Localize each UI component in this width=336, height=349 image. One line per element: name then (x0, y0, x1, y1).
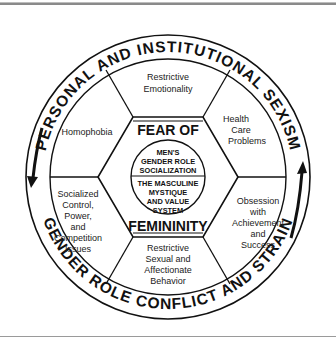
down-arrow-icon (27, 128, 42, 188)
svg-text:Affectionate: Affectionate (144, 265, 191, 275)
svg-text:Competition: Competition (54, 233, 102, 243)
hexagon-label-bottom: FEMININITY (128, 218, 208, 234)
segment-top-left-label: Homophobia (61, 127, 112, 137)
gender-role-conflict-diagram: PERSONAL AND INSTITUTIONAL SEXISM GENDER… (0, 0, 336, 349)
svg-text:and: and (250, 229, 265, 239)
svg-text:Socialized: Socialized (57, 189, 98, 199)
svg-text:Sexual and: Sexual and (145, 254, 190, 264)
svg-text:Problems: Problems (228, 136, 267, 146)
svg-text:Achievement: Achievement (232, 218, 285, 228)
up-arrow-icon (291, 161, 307, 238)
svg-text:and: and (70, 222, 85, 232)
svg-text:Homophobia: Homophobia (61, 127, 112, 137)
segment-bottom-label: Restrictive Sexual and Affectionate Beha… (144, 243, 191, 286)
segment-top-label: Restrictive Emotionality (143, 72, 193, 94)
svg-text:Emotionality: Emotionality (143, 84, 193, 94)
segment-top-right-label: Health Care Problems (223, 114, 267, 146)
svg-text:Control,: Control, (62, 200, 94, 210)
svg-text:AND VALUE: AND VALUE (147, 197, 190, 206)
svg-text:with: with (249, 207, 266, 217)
svg-text:Health: Health (223, 114, 249, 124)
core-lower-text: THE MASCULINE MYSTIQUE AND VALUE SYSTEM (138, 179, 199, 215)
svg-text:Power,: Power, (64, 211, 92, 221)
svg-text:Restrictive: Restrictive (147, 72, 189, 82)
svg-text:Success: Success (241, 240, 276, 250)
svg-text:GENDER ROLE: GENDER ROLE (141, 157, 195, 166)
svg-text:Issues: Issues (65, 244, 92, 254)
hexagon-label-top: FEAR OF (137, 122, 199, 138)
svg-text:Obsession: Obsession (237, 196, 280, 206)
svg-text:SYSTEM: SYSTEM (153, 206, 183, 215)
svg-text:MYSTIQUE: MYSTIQUE (149, 188, 188, 197)
svg-text:THE MASCULINE: THE MASCULINE (138, 179, 199, 188)
core-upper-text: MEN'S GENDER ROLE SOCIALIZATION (140, 148, 197, 175)
svg-text:SOCIALIZATION: SOCIALIZATION (140, 166, 197, 175)
svg-text:Care: Care (231, 125, 251, 135)
svg-text:Behavior: Behavior (150, 276, 186, 286)
svg-text:Restrictive: Restrictive (147, 243, 189, 253)
svg-text:MEN'S: MEN'S (156, 148, 179, 157)
